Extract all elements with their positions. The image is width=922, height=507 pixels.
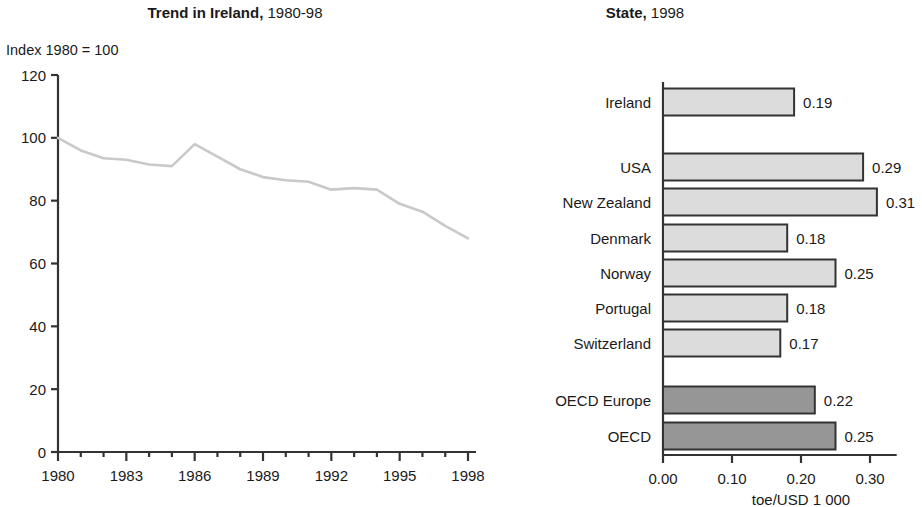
bar-category-label: Denmark [590, 230, 651, 247]
trend-line-series [58, 138, 468, 239]
bar [663, 189, 877, 216]
bar-value-label: 0.18 [796, 300, 825, 317]
trend-line-chart-svg: 0204060801001201980198319861989199219951… [0, 0, 500, 507]
right-x-tick-label: 0.30 [855, 470, 884, 487]
bar [663, 89, 794, 116]
left-x-tick-label: 1998 [451, 467, 484, 484]
bar-row: OECD0.25 [608, 423, 874, 450]
bar-category-label: Portugal [595, 300, 651, 317]
bar-row: Portugal0.18 [595, 295, 825, 322]
bar-row: USA0.29 [620, 154, 901, 181]
bar-category-label: Ireland [605, 94, 651, 111]
left-x-tick-label: 1986 [178, 467, 211, 484]
left-y-tick-label: 60 [29, 255, 46, 272]
bar-category-label: OECD Europe [555, 392, 651, 409]
left-x-tick-label: 1983 [110, 467, 143, 484]
bar-value-label: 0.31 [886, 194, 915, 211]
bar [663, 225, 787, 252]
right-axis-unit-label: toe/USD 1 000 [752, 491, 850, 507]
bar-row: Ireland0.19 [605, 89, 832, 116]
bar [663, 295, 787, 322]
bar-value-label: 0.19 [803, 94, 832, 111]
bar-value-label: 0.18 [796, 230, 825, 247]
state-bar-chart-panel: State, 1998 0.000.100.200.30toe/USD 1 00… [500, 0, 922, 507]
bar-row: Norway0.25 [600, 260, 874, 287]
bar-row: OECD Europe0.22 [555, 387, 853, 414]
left-y-tick-label: 40 [29, 318, 46, 335]
bar-value-label: 0.25 [845, 265, 874, 282]
left-y-tick-label: 120 [21, 67, 46, 84]
bar-category-label: Norway [600, 265, 651, 282]
left-y-tick-label: 80 [29, 192, 46, 209]
state-bar-chart-svg: 0.000.100.200.30toe/USD 1 000Ireland0.19… [500, 0, 922, 507]
left-x-tick-label: 1989 [246, 467, 279, 484]
bar [663, 330, 780, 357]
bar-value-label: 0.29 [872, 159, 901, 176]
bar [663, 387, 815, 414]
left-x-tick-label: 1980 [41, 467, 74, 484]
right-x-tick-label: 0.20 [786, 470, 815, 487]
right-x-tick-label: 0.10 [717, 470, 746, 487]
left-y-tick-label: 100 [21, 129, 46, 146]
bar-value-label: 0.25 [845, 428, 874, 445]
left-x-tick-label: 1992 [315, 467, 348, 484]
bar-value-label: 0.17 [789, 335, 818, 352]
bar [663, 423, 836, 450]
bar-category-label: New Zealand [563, 194, 651, 211]
bar-row: New Zealand0.31 [563, 189, 915, 216]
bar-value-label: 0.22 [824, 392, 853, 409]
bar-category-label: OECD [608, 428, 652, 445]
bar-category-label: USA [620, 159, 651, 176]
left-x-tick-label: 1995 [383, 467, 416, 484]
right-x-tick-label: 0.00 [648, 470, 677, 487]
left-y-tick-label: 20 [29, 381, 46, 398]
bar-row: Denmark0.18 [590, 225, 825, 252]
bar [663, 260, 836, 287]
bar [663, 154, 863, 181]
bar-row: Switzerland0.17 [573, 330, 818, 357]
trend-line-chart-panel: Trend in Ireland, 1980-98 Index 1980 = 1… [0, 0, 500, 507]
left-y-tick-label: 0 [38, 444, 46, 461]
bar-category-label: Switzerland [573, 335, 651, 352]
